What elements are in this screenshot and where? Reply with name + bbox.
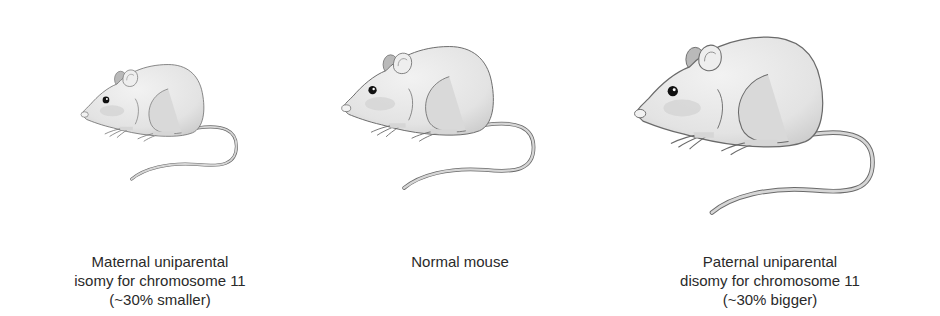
- caption-line: (~30% smaller): [40, 290, 280, 309]
- caption-line: Maternal uniparental: [40, 252, 280, 271]
- caption-line: Normal mouse: [340, 252, 580, 271]
- normal-mouse-illustration: [313, 36, 563, 194]
- caption-line: (~30% bigger): [650, 290, 890, 309]
- caption-line: isomy for chromosome 11: [40, 271, 280, 290]
- caption-paternal: Paternal uniparental disomy for chromoso…: [650, 252, 890, 309]
- large-mouse-illustration: [600, 24, 908, 220]
- caption-normal: Normal mouse: [340, 252, 580, 271]
- caption-line: disomy for chromosome 11: [650, 271, 890, 290]
- caption-maternal: Maternal uniparental isomy for chromosom…: [40, 252, 280, 309]
- caption-line: Paternal uniparental: [650, 252, 890, 271]
- small-mouse-illustration: [56, 56, 262, 184]
